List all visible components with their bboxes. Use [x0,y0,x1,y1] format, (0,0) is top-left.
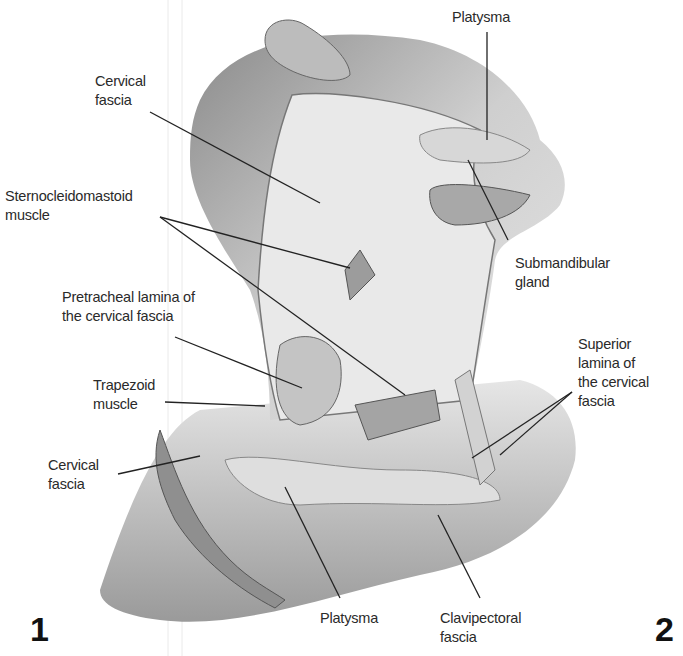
label-sternocleidomastoid-muscle: Sternocleidomastoid muscle [5,187,133,225]
label-pretracheal-lamina: Pretracheal lamina of the cervical fasci… [62,288,195,326]
label-trapezoid-muscle: Trapezoid muscle [93,376,155,414]
label-submandibular-gland: Submandibular gland [515,254,610,292]
panel-number-1: 1 [30,612,49,646]
label-clavipectoral-fascia: Clavipectoral fascia [440,609,521,647]
label-cervical-fascia-bottom: Cervical fascia [48,456,99,494]
panel-number-2: 2 [655,612,674,646]
label-superior-lamina: Superior lamina of the cervical fascia [578,335,649,411]
label-platysma-bottom: Platysma [320,609,378,628]
label-cervical-fascia-top: Cervical fascia [95,72,146,110]
label-platysma-top: Platysma [452,8,510,27]
